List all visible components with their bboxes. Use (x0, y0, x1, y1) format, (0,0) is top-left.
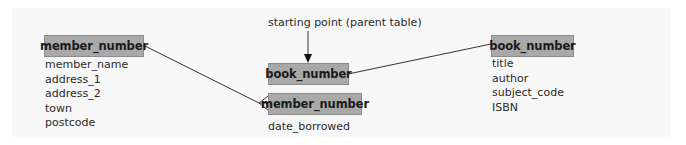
field-postcode: postcode (45, 116, 128, 131)
loan-table-primary-key: book_number (268, 63, 349, 85)
book-table-key: book_number (491, 35, 574, 57)
member-to-loan-relationship (143, 45, 268, 110)
field-subject-code: subject_code (492, 86, 564, 101)
field-address-1: address_1 (45, 73, 128, 88)
field-town: town (45, 102, 128, 117)
member-table-fields: member_name address_1 address_2 town pos… (45, 58, 128, 131)
field-title: title (492, 57, 564, 72)
loan-to-book-relationship (348, 44, 491, 74)
field-author: author (492, 72, 564, 87)
field-date-borrowed: date_borrowed (268, 120, 350, 135)
starting-point-arrow (304, 31, 312, 63)
starting-point-label: starting point (parent table) (268, 16, 422, 29)
loan-table-foreign-key: member_number (268, 93, 362, 115)
loan-table-fields: date_borrowed (268, 120, 350, 135)
book-table-fields: title author subject_code ISBN (492, 57, 564, 115)
field-isbn: ISBN (492, 101, 564, 116)
field-member-name: member_name (45, 58, 128, 73)
field-address-2: address_2 (45, 87, 128, 102)
member-table-key: member_number (44, 35, 144, 57)
